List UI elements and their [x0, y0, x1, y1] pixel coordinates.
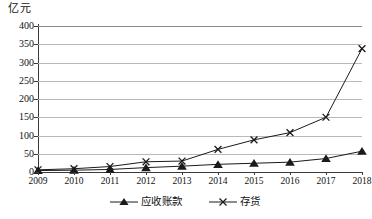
y-axis-tick-mark [34, 99, 38, 100]
x-axis-tick-mark [182, 172, 183, 175]
plot-area [38, 26, 362, 172]
x-axis-tick-mark [74, 172, 75, 175]
x-axis-tick-label: 2010 [65, 176, 84, 187]
y-axis-tick-mark [34, 81, 38, 82]
x-axis-tick-label: 2015 [245, 176, 264, 187]
x-axis-tick-label: 2016 [281, 176, 300, 187]
x-axis-tick-label: 2014 [209, 176, 228, 187]
x-axis-tick-mark [254, 172, 255, 175]
chart-legend: 应收账款 存货 [0, 196, 370, 208]
y-axis-tick-label: 400 [0, 21, 34, 31]
x-axis-tick-mark [146, 172, 147, 175]
series-layer [38, 26, 362, 172]
x-axis-tick-mark [110, 172, 111, 175]
y-axis-tick-mark [34, 26, 38, 27]
legend-item-accounts-receivable: 应收账款 [110, 196, 183, 208]
x-axis-tick-mark [362, 172, 363, 175]
x-axis-tick-label: 2013 [173, 176, 192, 187]
triangle-marker-icon [110, 197, 138, 207]
x-axis-tick-label: 2018 [353, 176, 372, 187]
x-axis-tick-mark [290, 172, 291, 175]
x-axis-tick-label: 2011 [101, 176, 120, 187]
y-axis-tick-mark [34, 44, 38, 45]
legend-item-inventory: 存货 [209, 196, 261, 208]
series-line [38, 49, 362, 170]
x-axis-tick-label: 2012 [137, 176, 156, 187]
y-axis-tick-label: 200 [0, 94, 34, 104]
y-axis-unit-label: 亿元 [8, 2, 31, 14]
y-axis-tick-label: 350 [0, 39, 34, 49]
x-axis-tick-mark [326, 172, 327, 175]
x-axis-tick-mark [218, 172, 219, 175]
y-axis-tick-label: 300 [0, 58, 34, 68]
y-axis-tick-label: 100 [0, 131, 34, 141]
x-marker-icon [209, 197, 237, 207]
y-axis-tick-mark [34, 63, 38, 64]
series-1 [33, 147, 367, 174]
x-axis-tick-label: 2017 [317, 176, 336, 187]
y-axis-tick-label: 50 [0, 149, 34, 159]
x-axis-tick-label: 2009 [29, 176, 48, 187]
y-axis-tick-label: 250 [0, 76, 34, 86]
series-2 [35, 45, 366, 173]
legend-label-inventory: 存货 [240, 196, 261, 208]
x-axis-line [38, 172, 362, 173]
y-axis-tick-mark [34, 117, 38, 118]
data-point-marker [357, 147, 367, 155]
y-axis-tick-mark [34, 136, 38, 137]
x-axis-tick-mark [38, 172, 39, 175]
y-axis-tick-label: 150 [0, 112, 34, 122]
y-axis-tick-mark [34, 154, 38, 155]
legend-label-accounts-receivable: 应收账款 [141, 196, 183, 208]
